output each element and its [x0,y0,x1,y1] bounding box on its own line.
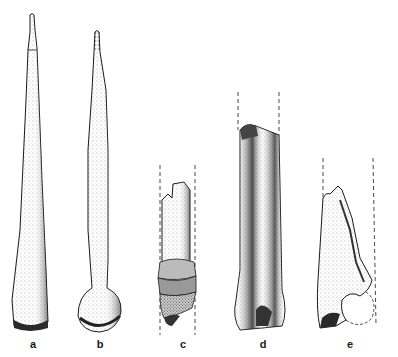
label-d: d [256,338,270,350]
specimen-a [12,14,48,332]
artifact-plate [0,0,398,357]
specimen-c [158,165,196,335]
specimen-b [78,31,121,333]
specimen-e [317,158,376,328]
label-b: b [93,338,107,350]
label-c: c [176,338,190,350]
specimen-d [235,92,285,330]
label-a: a [26,338,40,350]
label-e: e [343,338,357,350]
